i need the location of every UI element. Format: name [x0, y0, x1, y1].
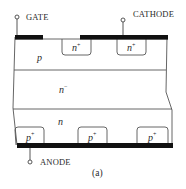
- gate-terminal: GATE: [15, 12, 49, 36]
- anode-label: ANODE: [40, 157, 71, 167]
- cathode-pin-icon: [121, 18, 125, 22]
- region-p-plus-3: p+: [147, 131, 157, 143]
- cathode-label: CATHODE: [133, 9, 174, 19]
- gto-thyristor-diagram: GATE CATHODE ANODE p n+ n+ n− n p+ p+ p+…: [0, 0, 186, 189]
- cathode-terminal: CATHODE: [121, 9, 174, 36]
- figure-caption: (a): [92, 168, 103, 179]
- anode-terminal: ANODE: [28, 148, 71, 167]
- region-n-buffer: n: [58, 116, 63, 127]
- gate-metal: [15, 35, 43, 40]
- region-n-plus-1: n+: [72, 42, 81, 53]
- right-edge: [166, 37, 172, 145]
- region-p-plus-2: p+: [87, 131, 97, 143]
- region-p-plus-1: p+: [25, 131, 35, 143]
- region-n-plus-2: n+: [127, 42, 136, 53]
- cathode-metal: [80, 35, 168, 40]
- region-p-base: p: [36, 52, 42, 63]
- anode-pin-icon: [28, 160, 32, 164]
- anode-metal: [17, 143, 173, 148]
- region-n-drift: n−: [59, 83, 68, 95]
- gate-pin-icon: [15, 15, 19, 19]
- gate-label: GATE: [26, 12, 49, 22]
